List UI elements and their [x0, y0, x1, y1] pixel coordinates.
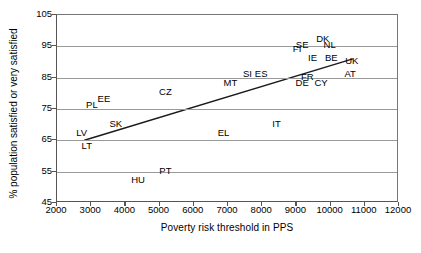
scatter-chart: % population satisfied or very satisfied… — [0, 0, 421, 253]
data-point-label-pt: PT — [159, 166, 171, 176]
data-point-label-cy: CY — [314, 78, 327, 88]
data-point-label-it: IT — [272, 119, 280, 129]
y-axis-tick-labels: 455565758595105 — [22, 0, 52, 253]
data-point-label-cz: CZ — [159, 87, 172, 97]
y-axis-tick-label: 85 — [26, 72, 52, 82]
plot-area — [56, 14, 398, 202]
y-axis-tick-label: 105 — [26, 9, 52, 19]
data-point-label-ee: EE — [98, 94, 111, 104]
x-axis-title: Poverty risk threshold in PPS — [56, 222, 398, 233]
gridline — [57, 140, 397, 141]
data-point-label-se: SE — [296, 40, 309, 50]
y-axis-tick-label: 95 — [26, 40, 52, 50]
y-axis-tick-mark — [52, 77, 56, 78]
x-axis-tick-mark — [364, 202, 365, 206]
y-axis-tick-mark — [52, 108, 56, 109]
y-axis-tick-label: 55 — [26, 166, 52, 176]
x-axis-tick-mark — [330, 202, 331, 206]
data-point-label-lt: LT — [82, 141, 92, 151]
x-axis-tick-mark — [193, 202, 194, 206]
gridline — [57, 109, 397, 110]
x-axis-tick-mark — [159, 202, 160, 206]
x-axis-tick-label: 12000 — [376, 205, 420, 215]
y-axis-tick-label: 65 — [26, 134, 52, 144]
y-axis-tick-mark — [52, 171, 56, 172]
x-axis-tick-mark — [227, 202, 228, 206]
data-point-label-lv: LV — [76, 128, 87, 138]
x-axis-tick-mark — [56, 202, 57, 206]
data-point-label-nl: NL — [324, 40, 336, 50]
x-axis-tick-mark — [261, 202, 262, 206]
data-point-label-mt: MT — [224, 78, 238, 88]
data-point-label-ie: IE — [308, 53, 317, 63]
data-point-label-uk: UK — [345, 56, 358, 66]
y-axis-title: % population satisfied or very satisfied — [8, 19, 19, 209]
data-point-label-es: ES — [255, 69, 268, 79]
data-point-label-sk: SK — [109, 119, 122, 129]
x-axis-tick-mark — [124, 202, 125, 206]
y-axis-tick-mark — [52, 139, 56, 140]
gridline — [57, 172, 397, 173]
y-axis-tick-label: 75 — [26, 103, 52, 113]
x-axis-tick-mark — [295, 202, 296, 206]
x-axis-tick-mark — [398, 202, 399, 206]
data-point-label-pl: PL — [86, 100, 98, 110]
data-point-label-si: SI — [243, 69, 252, 79]
data-point-label-fr: FR — [301, 72, 314, 82]
data-point-label-hu: HU — [131, 175, 145, 185]
y-axis-tick-mark — [52, 45, 56, 46]
x-axis-tick-mark — [90, 202, 91, 206]
data-point-label-at: AT — [344, 69, 355, 79]
data-point-label-be: BE — [325, 53, 338, 63]
gridline — [57, 46, 397, 47]
y-axis-tick-mark — [52, 14, 56, 15]
data-point-label-el: EL — [218, 128, 230, 138]
